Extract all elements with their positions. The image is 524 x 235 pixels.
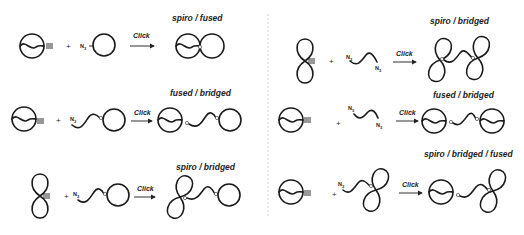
linker-icon — [78, 189, 104, 202]
ring-icon — [103, 109, 125, 131]
product-label: spiro / bridged — [176, 162, 236, 172]
azide-label: N3 — [73, 191, 80, 199]
triazole-icon — [215, 116, 218, 119]
plus-sign: + — [66, 42, 71, 51]
plus-sign: + — [64, 192, 69, 201]
triazole-icon — [103, 192, 106, 195]
triazole-icon — [185, 121, 188, 124]
fused-macrocycle-icon — [176, 34, 200, 58]
triazole-icon — [369, 184, 372, 187]
fused-macrocycle-icon — [279, 180, 303, 204]
reaction-left-2: + N3 Click fused / bridged — [12, 88, 241, 132]
alkyne-icon — [46, 44, 53, 48]
alkyne-icon — [43, 194, 50, 198]
fused-macrocycle-icon — [20, 34, 44, 58]
ring-icon — [93, 34, 115, 56]
alkyne-icon — [37, 119, 44, 123]
ring-icon — [200, 34, 224, 58]
triazole-icon — [475, 117, 478, 120]
triazole-icon — [456, 193, 459, 196]
triazole-icon — [440, 57, 443, 60]
alkyne-icon — [308, 59, 315, 63]
triazole-icon — [214, 192, 217, 195]
product-label: spiro / bridged — [430, 16, 490, 26]
linker-icon — [453, 113, 476, 124]
reaction-left-3: + N3 Click spiro / bridged — [32, 162, 240, 220]
azide-label: N3 — [376, 122, 383, 130]
ring-icon — [107, 184, 129, 206]
triazole-icon — [183, 196, 186, 199]
azide-label: N3 — [70, 116, 77, 124]
arrow-label: Click — [134, 109, 152, 116]
plus-sign: + — [332, 190, 337, 199]
fused-macrocycle-icon — [422, 109, 446, 133]
fused-macrocycle-icon — [480, 109, 504, 133]
figure-eight-icon — [361, 167, 391, 214]
figure-eight-icon — [478, 168, 508, 215]
reaction-left-1: + N3 Click spiro / fused — [20, 13, 224, 58]
azide-label: N3 — [338, 181, 345, 189]
product-label: fused / bridged — [170, 88, 232, 98]
linker-icon — [189, 113, 216, 126]
fused-macrocycle-icon — [429, 180, 453, 204]
diazide-linker-icon — [350, 53, 377, 64]
plus-sign: + — [329, 57, 334, 66]
linker-icon — [343, 181, 370, 192]
figure-eight-icon — [427, 37, 454, 84]
alkyne-icon — [304, 118, 311, 122]
linker-icon — [444, 51, 472, 62]
fused-macrocycle-icon — [12, 107, 36, 131]
triazole-icon — [449, 120, 452, 123]
arrow-label: Click — [137, 185, 155, 192]
azide-label: N3 — [80, 43, 87, 51]
alkyne-icon — [304, 191, 311, 195]
product-label: fused / bridged — [433, 90, 495, 100]
arrow-label: Click — [133, 32, 151, 39]
plus-sign: + — [336, 119, 341, 128]
triazole-icon — [198, 45, 201, 48]
reaction-right-2: + N3 N3 Click fused / bridged — [279, 90, 504, 133]
fused-macrocycle-icon — [158, 108, 182, 132]
triazole-icon — [99, 116, 102, 119]
plus-sign: + — [56, 116, 61, 125]
fused-macrocycle-icon — [279, 108, 303, 132]
ring-icon — [219, 109, 241, 131]
product-label: spiro / bridged / fused — [424, 149, 514, 159]
arrow-label: Click — [399, 109, 417, 116]
product-label: spiro / fused — [172, 13, 223, 23]
diazide-linker-icon — [354, 110, 378, 118]
figure-eight-icon — [165, 174, 195, 221]
arrow-label: Click — [396, 50, 414, 57]
reaction-right-3: + N3 Click spiro / bridged / fused — [279, 149, 514, 214]
arrow-label: Click — [402, 181, 420, 188]
azide-label: N3 — [375, 65, 382, 73]
ring-icon — [218, 184, 240, 206]
figure-eight-icon — [465, 35, 492, 82]
azide-label: N3 — [348, 105, 355, 113]
reaction-right-1: + N3 N3 Click spiro / bridged — [297, 16, 491, 83]
click-reaction-scheme: + N3 Click spiro / fused + N3 Click fuse… — [0, 0, 524, 235]
